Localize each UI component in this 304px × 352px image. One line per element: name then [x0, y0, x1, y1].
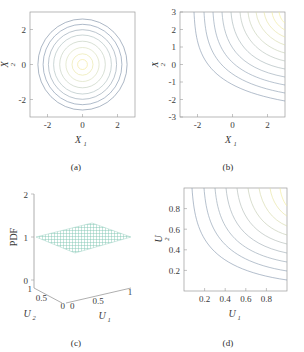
panel-c-ytick-1: 0.5 [36, 293, 48, 303]
panel-c-ztick-0: 2 [24, 190, 29, 200]
panel-a-ytick-1: 0 [22, 60, 27, 70]
panel-d-xtick-2: 0.6 [240, 294, 252, 304]
panel-c-xtick-0: 0 [70, 301, 75, 311]
panel-a-xtick-1: 0 [80, 120, 85, 130]
panel-b-ytick-2: 1 [172, 42, 177, 52]
panel-a-ytick-0: 2 [22, 25, 27, 35]
panel-a-yaxis-label: X 2 [0, 61, 16, 69]
panel-b-ytick-5: -2 [169, 95, 177, 105]
panel-a-xtick-2: 2 [115, 120, 120, 130]
panel-d: 0.2 0.4 0.6 0.8 0.8 0.6 0.4 0.2 U 1 U 2 [152, 176, 304, 352]
panel-b-ytick-0: 3 [172, 7, 177, 17]
panel-c-xaxis-label-text: U [98, 310, 106, 321]
panel-d-xtick-3: 0.8 [261, 294, 273, 304]
panel-c: 2 1 0 PDF 1 0.5 0 0 0.5 1 U 2 [0, 176, 152, 352]
panel-d-ytick-0: 0.8 [169, 204, 181, 214]
panel-c-plot: 2 1 0 PDF 1 0.5 0 0 0.5 1 U 2 [0, 176, 152, 352]
panel-b-xaxis-label: X 1 [224, 134, 237, 147]
panel-b-plot: -2 0 2 3 2 1 0 -1 -2 -3 X 1 [152, 0, 304, 176]
panel-a-xaxis-label-text: X [74, 134, 82, 145]
panel-b-ytick-1: 2 [172, 25, 177, 35]
panel-d-caption: (d) [152, 338, 304, 348]
panel-c-yaxis-label: U 2 [23, 308, 36, 321]
panel-b-xtick-2: 2 [265, 120, 270, 130]
panel-a-xtick-0: -2 [44, 120, 52, 130]
panel-a-xaxis-label: X 1 [74, 134, 87, 147]
panel-d-xaxis-label-text: U [228, 308, 236, 319]
panel-a-ytick-2: -2 [19, 95, 27, 105]
panel-a-axes-frame [30, 12, 135, 117]
panel-c-zaxis-label: PDF [8, 227, 19, 246]
panel-c-zticks [31, 194, 34, 280]
panel-c-xaxis-label-sub: 1 [107, 316, 110, 323]
panel-b-xaxis-label-text: X [224, 134, 232, 145]
panel-d-ytick-3: 0.2 [169, 266, 180, 276]
panel-b-yaxis-label-sub: 2 [159, 62, 166, 66]
panel-d-xtick-0: 0.2 [199, 294, 210, 304]
panel-b-caption: (b) [152, 162, 304, 172]
panel-b-xtick-1: 0 [230, 120, 235, 130]
panel-c-ytick-0: 1 [28, 284, 33, 294]
panel-a-yaxis-label-sub: 2 [9, 62, 16, 66]
panel-d-ytick-2: 0.4 [169, 245, 181, 255]
panel-b-xaxis-label-sub: 1 [233, 140, 236, 147]
panel-a-caption: (a) [0, 162, 152, 172]
figure-container: -2 0 2 2 0 -2 X 1 X 2 (a) [0, 0, 304, 352]
panel-c-yaxis-label-sub: 2 [32, 314, 36, 321]
panel-c-xtick-2: 1 [128, 287, 133, 297]
panel-c-surface [36, 223, 131, 253]
panel-d-yaxis-label-sub: 2 [163, 237, 170, 241]
panel-c-caption: (c) [0, 338, 152, 348]
panel-b-xtick-0: -2 [194, 120, 202, 130]
panel-d-yaxis-label: U 2 [153, 235, 170, 243]
panel-c-xtick-1: 0.5 [92, 296, 104, 306]
panel-b-ytick-3: 0 [172, 60, 177, 70]
panel-a: -2 0 2 2 0 -2 X 1 X 2 (a) [0, 0, 152, 176]
panel-b-ytick-6: -3 [169, 112, 177, 122]
panel-c-ztick-1: 1 [24, 233, 29, 243]
panel-d-ytick-1: 0.6 [169, 225, 181, 235]
panel-a-xaxis-label-sub: 1 [83, 140, 86, 147]
panel-a-plot: -2 0 2 2 0 -2 X 1 X 2 [0, 0, 152, 176]
panel-d-xtick-1: 0.4 [220, 294, 232, 304]
panel-c-ytick-2: 0 [61, 301, 66, 311]
panel-d-plot: 0.2 0.4 0.6 0.8 0.8 0.6 0.4 0.2 U 1 U 2 [152, 176, 304, 352]
panel-b-ytick-4: -1 [169, 77, 177, 87]
panel-b: -2 0 2 3 2 1 0 -1 -2 -3 X 1 [152, 0, 304, 176]
panel-d-xaxis-label-sub: 1 [237, 314, 240, 321]
panel-d-xaxis-label: U 1 [228, 308, 240, 321]
panel-c-yaxis-label-text: U [23, 308, 31, 319]
panel-c-xaxis-label: U 1 [98, 310, 110, 323]
panel-b-yaxis-label: X 2 [152, 61, 166, 69]
